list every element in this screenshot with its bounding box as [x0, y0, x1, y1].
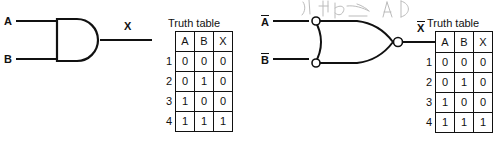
cell-b-bar: 0 — [455, 93, 474, 113]
row-number: 1 — [418, 53, 436, 73]
table-row: 4 1 1 1 — [418, 113, 493, 133]
table-row-highlighted: 2 0 1 0 — [418, 73, 493, 93]
row-number: 2 — [418, 73, 436, 93]
left-circuit: A B X — [0, 0, 160, 80]
left-truth-table-title: Truth table — [168, 18, 220, 29]
column-header-x: X — [214, 32, 233, 52]
row-number: 4 — [418, 113, 436, 133]
input-b-inversion-bubble — [312, 59, 320, 67]
cell-b: 0 — [195, 92, 214, 112]
cell-a: 1 — [176, 92, 195, 112]
cell-a: 1 — [176, 112, 195, 132]
right-truth-table: A B X 1 0 0 0 2 0 1 0 3 1 0 0 4 — [418, 31, 493, 133]
cell-x: 0 — [214, 72, 233, 92]
row-number: 4 — [158, 112, 176, 132]
input-a-bar-wire — [273, 20, 309, 22]
row-number-header — [418, 32, 436, 53]
table-row: 2 0 1 0 — [158, 72, 233, 92]
cell-x: 0 — [214, 52, 233, 72]
table-row-highlighted: 4 1 1 1 — [158, 112, 233, 132]
cell-a: 0 — [176, 72, 195, 92]
table-row: 3 1 0 0 — [158, 92, 233, 112]
cell-x-bar: 0 — [474, 93, 493, 113]
column-header-b-bar: B — [455, 32, 474, 53]
cell-x: 1 — [214, 112, 233, 132]
row-number: 3 — [158, 92, 176, 112]
table-row: 1 0 0 0 — [158, 52, 233, 72]
left-truth-table: A B X 1 0 0 0 2 0 1 0 3 1 0 0 4 1 1 1 — [158, 31, 233, 132]
column-header-a-bar: A — [436, 32, 455, 53]
cell-x: 0 — [214, 92, 233, 112]
row-number: 2 — [158, 72, 176, 92]
input-a-label: A — [4, 16, 12, 27]
cell-a-bar: 1 — [436, 113, 455, 133]
input-a-wire — [16, 20, 58, 22]
cell-x-bar: 0 — [474, 73, 493, 93]
cell-b: 1 — [195, 112, 214, 132]
input-a-bar-label: A — [261, 16, 269, 28]
cell-a: 0 — [176, 52, 195, 72]
table-header-row: A B X — [158, 32, 233, 52]
right-truth-table-title: Truth table — [427, 18, 479, 29]
table-row-highlighted: 3 1 0 0 — [418, 93, 493, 113]
row-number: 1 — [158, 52, 176, 72]
cell-b-bar: 1 — [455, 73, 474, 93]
table-header-row: A B X — [418, 32, 493, 53]
row-number-header — [158, 32, 176, 52]
or-gate-symbol — [305, 10, 415, 74]
input-b-wire — [16, 58, 58, 60]
right-circuit: A B X — [247, 0, 417, 80]
output-x-wire — [100, 39, 152, 41]
cell-x-bar: 1 — [474, 113, 493, 133]
column-header-a: A — [176, 32, 195, 52]
input-b-bar-wire — [273, 58, 309, 60]
column-header-x-bar: X — [474, 32, 493, 53]
column-header-b: B — [195, 32, 214, 52]
output-inversion-bubble — [394, 38, 403, 47]
cell-x-bar: 0 — [474, 53, 493, 73]
cell-b-bar: 0 — [455, 53, 474, 73]
output-x-label: X — [124, 21, 132, 32]
cell-b: 1 — [195, 72, 214, 92]
cell-a-bar: 1 — [436, 93, 455, 113]
input-b-label: B — [4, 54, 12, 65]
input-b-bar-label: B — [261, 54, 269, 66]
input-a-inversion-bubble — [312, 17, 320, 25]
figure-canvas: A B X Truth table A B X 1 0 — [0, 0, 494, 143]
cell-b-bar: 1 — [455, 113, 474, 133]
cell-a-bar: 0 — [436, 53, 455, 73]
table-row-highlighted: 1 0 0 0 — [418, 53, 493, 73]
cell-b: 0 — [195, 52, 214, 72]
row-number: 3 — [418, 93, 436, 113]
cell-a-bar: 0 — [436, 73, 455, 93]
